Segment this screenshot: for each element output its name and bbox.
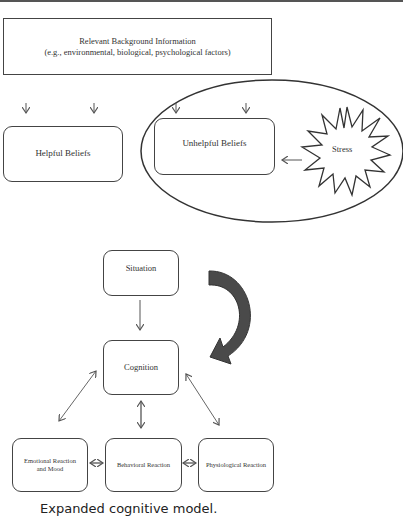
situation-label: Situation xyxy=(126,263,157,274)
cognition-label: Cognition xyxy=(124,362,158,373)
behavioral-reaction-label: Behavioral Reaction xyxy=(117,461,170,469)
emotional-reaction-line1: Emotional Reaction xyxy=(24,457,76,465)
helpful-beliefs-label: Helpful Beliefs xyxy=(35,148,90,159)
arrow-cognition-physiological xyxy=(186,374,219,425)
physiological-reaction-box: Physiological Reaction xyxy=(198,438,274,492)
figure-caption: Expanded cognitive model. xyxy=(40,501,217,516)
stress-label: Stress xyxy=(332,144,352,155)
background-info-box: Relevant Background Information (e.g., e… xyxy=(3,18,272,75)
situation-box: Situation xyxy=(103,250,179,296)
behavioral-reaction-box: Behavioral Reaction xyxy=(105,438,182,492)
background-info-examples: (e.g., environmental, biological, psycho… xyxy=(44,47,230,58)
helpful-beliefs-box: Helpful Beliefs xyxy=(3,126,123,182)
physiological-reaction-label: Physiological Reaction xyxy=(206,461,266,469)
curved-feedback-arrow xyxy=(209,271,250,364)
emotional-reaction-box: Emotional Reaction and Mood xyxy=(12,438,88,492)
cognition-box: Cognition xyxy=(103,340,179,395)
emotional-reaction-line2: and Mood xyxy=(37,465,64,473)
arrow-cognition-emotional xyxy=(59,371,96,421)
unhelpful-beliefs-box: Unhelpful Beliefs xyxy=(154,118,275,175)
background-info-title: Relevant Background Information xyxy=(79,36,196,47)
unhelpful-beliefs-label: Unhelpful Beliefs xyxy=(182,138,246,149)
